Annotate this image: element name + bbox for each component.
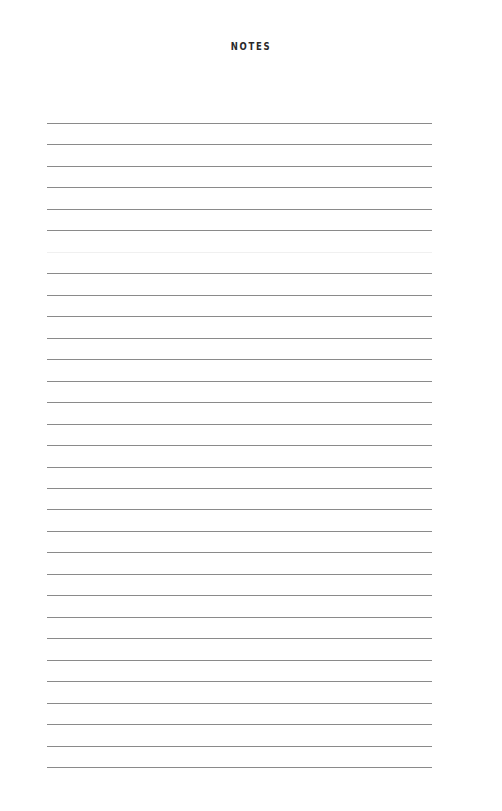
ruled-line: [47, 488, 432, 489]
ruled-line: [47, 746, 432, 747]
ruled-line: [47, 531, 432, 532]
ruled-line: [47, 209, 432, 210]
ruled-line: [47, 144, 432, 145]
ruled-line: [47, 595, 432, 596]
ruled-line: [47, 660, 432, 661]
ruled-line: [47, 381, 432, 382]
ruled-line: [47, 402, 432, 403]
ruled-lines-area[interactable]: [47, 0, 432, 811]
ruled-line: [47, 338, 432, 339]
ruled-line: [47, 445, 432, 446]
ruled-line: [47, 617, 432, 618]
ruled-line: [47, 424, 432, 425]
ruled-line: [47, 230, 432, 231]
ruled-line: [47, 166, 432, 167]
ruled-line: [47, 724, 432, 725]
ruled-line: [47, 552, 432, 553]
ruled-line: [47, 187, 432, 188]
ruled-line: [47, 295, 432, 296]
ruled-line: [47, 509, 432, 510]
ruled-line: [47, 467, 432, 468]
ruled-line: [47, 681, 432, 682]
ruled-line: [47, 359, 432, 360]
ruled-line: [47, 574, 432, 575]
ruled-line: [47, 767, 432, 768]
ruled-line: [47, 252, 432, 253]
ruled-line: [47, 123, 432, 124]
ruled-line: [47, 703, 432, 704]
ruled-line: [47, 316, 432, 317]
ruled-line: [47, 273, 432, 274]
ruled-line: [47, 638, 432, 639]
